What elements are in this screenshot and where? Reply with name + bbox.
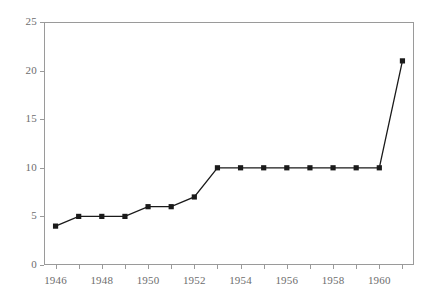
y-tick-label: 15 [8, 112, 37, 124]
data-point-marker [377, 165, 382, 170]
x-tick-label: 1950 [128, 274, 168, 286]
data-point-marker [215, 165, 220, 170]
y-tick-label: 20 [8, 64, 37, 76]
y-tick-label: 0 [8, 258, 37, 270]
data-point-marker [330, 165, 335, 170]
data-point-marker [238, 165, 243, 170]
x-tick-label: 1948 [82, 274, 122, 286]
x-tick-label: 1946 [36, 274, 76, 286]
data-point-marker [261, 165, 266, 170]
x-tick-label: 1954 [221, 274, 261, 286]
chart-plot-area [0, 0, 428, 300]
data-point-marker [122, 214, 127, 219]
plot-frame [45, 23, 414, 265]
x-tick-label: 1958 [313, 274, 353, 286]
data-point-marker [99, 214, 104, 219]
y-tick-label: 10 [8, 161, 37, 173]
series-line-series-1 [56, 61, 403, 226]
y-tick-label: 25 [8, 15, 37, 27]
x-axis-ticks [57, 265, 403, 269]
data-line [56, 61, 403, 226]
data-point-marker [400, 58, 405, 63]
data-point-marker [284, 165, 289, 170]
line-chart: 0510152025 19461948195019521954195619581… [0, 0, 428, 300]
data-markers [53, 58, 405, 228]
data-point-marker [53, 224, 58, 229]
data-point-marker [76, 214, 81, 219]
data-point-marker [354, 165, 359, 170]
x-tick-label: 1960 [359, 274, 399, 286]
data-point-marker [307, 165, 312, 170]
x-tick-label: 1956 [267, 274, 307, 286]
y-axis-ticks [40, 23, 44, 266]
x-tick-label: 1952 [174, 274, 214, 286]
data-point-marker [169, 204, 174, 209]
plot-border [45, 23, 414, 265]
data-point-marker [192, 194, 197, 199]
data-point-marker [145, 204, 150, 209]
y-tick-label: 5 [8, 209, 37, 221]
